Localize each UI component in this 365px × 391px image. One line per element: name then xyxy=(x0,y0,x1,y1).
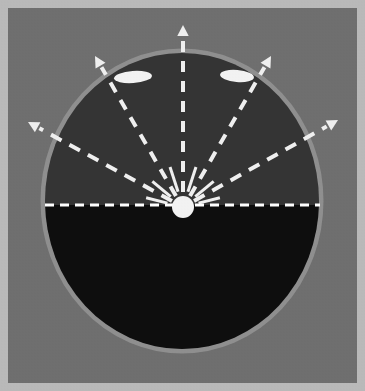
point-source xyxy=(172,196,194,218)
figure-root xyxy=(0,0,365,391)
diagram-canvas xyxy=(0,0,365,391)
